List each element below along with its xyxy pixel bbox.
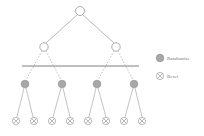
legend-reset-label: Reset [167,74,179,79]
edges-root [46,15,114,43]
tree-diagram: Randomize Reset [0,0,204,136]
reset-node-icon [84,117,91,124]
randomize-node-icon [58,80,66,88]
reset-node-icon [48,117,55,124]
edges-leaves [17,88,142,117]
randomize-node-icon [21,80,29,88]
legend: Randomize Reset [156,54,190,79]
reset-node-icon [102,117,109,124]
reset-node-icon [66,117,73,124]
reset-node-icon [120,117,127,124]
reset-node-icon [30,117,37,124]
root-node [76,7,85,16]
right-node [112,43,120,51]
randomize-nodes [21,80,138,88]
randomize-node-icon [130,80,138,88]
reset-node-icon [12,117,19,124]
plain-nodes [40,7,120,52]
reset-nodes [12,117,145,124]
reset-node-icon [138,117,145,124]
left-node [40,43,48,51]
legend-randomize-label: Randomize [167,56,191,61]
legend-randomize-icon [156,54,164,62]
randomize-node-icon [93,80,101,88]
legend-reset-icon [156,72,163,79]
edges-dashed [26,51,133,80]
